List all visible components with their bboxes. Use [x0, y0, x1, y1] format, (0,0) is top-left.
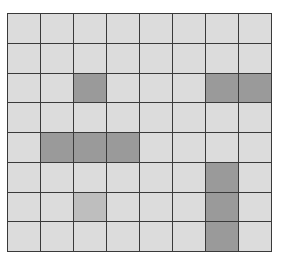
board-cell-r0-c6[interactable] [206, 14, 238, 43]
board-cell-r3-c1[interactable] [41, 103, 73, 132]
board-cell-r3-c4[interactable] [140, 103, 172, 132]
board-cell-r0-c3[interactable] [107, 14, 139, 43]
board-cell-r3-c5[interactable] [173, 103, 205, 132]
board-cell-r5-c3[interactable] [107, 163, 139, 192]
board-cell-r1-c6[interactable] [206, 44, 238, 73]
board-cell-r2-c5[interactable] [173, 74, 205, 103]
board-cell-r1-c7[interactable] [239, 44, 271, 73]
board-cell-r0-c1[interactable] [41, 14, 73, 43]
board-cell-r1-c4[interactable] [140, 44, 172, 73]
board-cell-r2-c1[interactable] [41, 74, 73, 103]
board-cell-r0-c2[interactable] [74, 14, 106, 43]
board-cell-r7-c7[interactable] [239, 222, 271, 251]
board-cell-r2-c2[interactable] [74, 74, 106, 103]
board-cell-r6-c6[interactable] [206, 193, 238, 222]
board-cell-r7-c2[interactable] [74, 222, 106, 251]
board-cell-r5-c2[interactable] [74, 163, 106, 192]
board-cell-r0-c7[interactable] [239, 14, 271, 43]
board-cell-r1-c1[interactable] [41, 44, 73, 73]
board-cell-r2-c6[interactable] [206, 74, 238, 103]
board-cell-r1-c2[interactable] [74, 44, 106, 73]
board-cell-r2-c4[interactable] [140, 74, 172, 103]
board-cell-r5-c5[interactable] [173, 163, 205, 192]
board-cell-r0-c5[interactable] [173, 14, 205, 43]
board-cell-r1-c5[interactable] [173, 44, 205, 73]
board-cell-r6-c7[interactable] [239, 193, 271, 222]
board-cell-r7-c6[interactable] [206, 222, 238, 251]
board-cell-r6-c1[interactable] [41, 193, 73, 222]
board-cell-r4-c6[interactable] [206, 133, 238, 162]
board-cell-r0-c0[interactable] [8, 14, 40, 43]
board-cell-r7-c1[interactable] [41, 222, 73, 251]
board-cell-r5-c0[interactable] [8, 163, 40, 192]
board-cell-r2-c0[interactable] [8, 74, 40, 103]
board-cell-r5-c6[interactable] [206, 163, 238, 192]
board-cell-r2-c7[interactable] [239, 74, 271, 103]
board-cell-r7-c3[interactable] [107, 222, 139, 251]
board-cell-r4-c5[interactable] [173, 133, 205, 162]
board-cell-r2-c3[interactable] [107, 74, 139, 103]
board-cell-r6-c2[interactable] [74, 193, 106, 222]
board-cell-r4-c1[interactable] [41, 133, 73, 162]
board-cell-r1-c0[interactable] [8, 44, 40, 73]
board-cell-r1-c3[interactable] [107, 44, 139, 73]
board-cell-r4-c7[interactable] [239, 133, 271, 162]
board-cell-r6-c3[interactable] [107, 193, 139, 222]
board-cell-r4-c2[interactable] [74, 133, 106, 162]
board-cell-r3-c7[interactable] [239, 103, 271, 132]
board-cell-r5-c7[interactable] [239, 163, 271, 192]
game-board [7, 13, 272, 252]
board-cell-r6-c5[interactable] [173, 193, 205, 222]
board-cell-r4-c3[interactable] [107, 133, 139, 162]
board-cell-r0-c4[interactable] [140, 14, 172, 43]
board-cell-r3-c2[interactable] [74, 103, 106, 132]
board-cell-r7-c5[interactable] [173, 222, 205, 251]
board-cell-r3-c6[interactable] [206, 103, 238, 132]
board-cell-r6-c4[interactable] [140, 193, 172, 222]
board-cell-r3-c3[interactable] [107, 103, 139, 132]
board-cell-r7-c4[interactable] [140, 222, 172, 251]
board-cell-r4-c4[interactable] [140, 133, 172, 162]
board-cell-r5-c1[interactable] [41, 163, 73, 192]
board-cell-r3-c0[interactable] [8, 103, 40, 132]
board-cell-r4-c0[interactable] [8, 133, 40, 162]
board-cell-r6-c0[interactable] [8, 193, 40, 222]
board-cell-r7-c0[interactable] [8, 222, 40, 251]
board-cell-r5-c4[interactable] [140, 163, 172, 192]
